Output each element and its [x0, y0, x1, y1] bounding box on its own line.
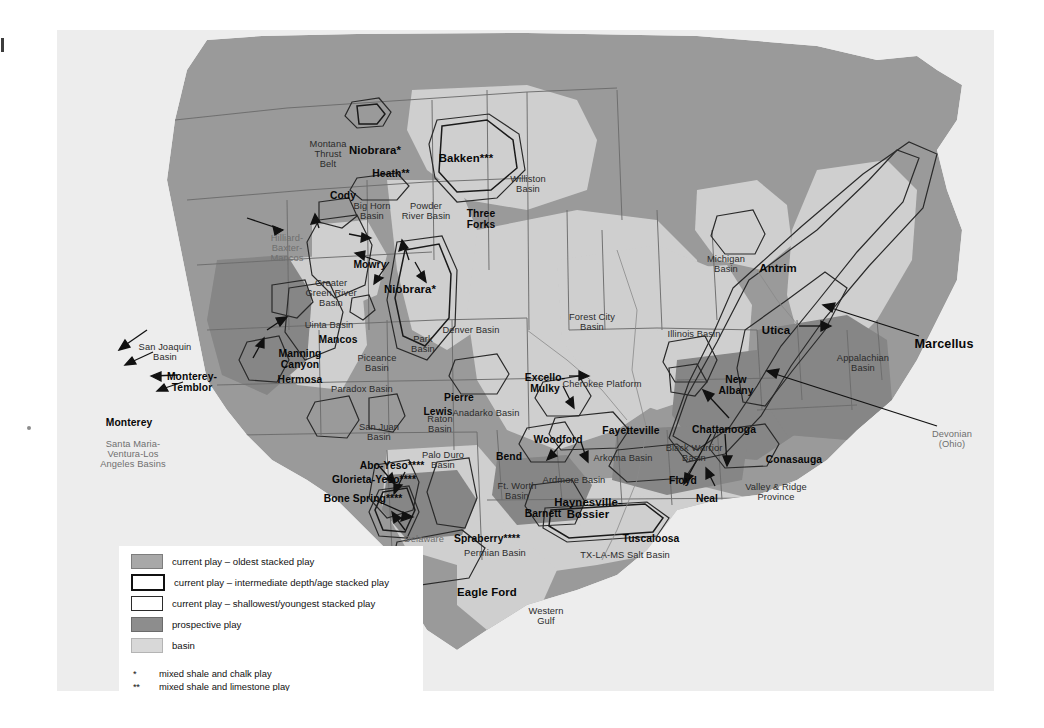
- play-label: Niobrara*: [349, 144, 401, 156]
- play-label: Hermosa: [278, 374, 323, 385]
- basin-label: Big HornBasin: [354, 202, 391, 222]
- basin-label: Forest CityBasin: [569, 313, 615, 333]
- legend-swatch: [131, 638, 163, 653]
- play-label: Marcellus: [915, 338, 974, 351]
- play-label: Conasauga: [766, 454, 822, 465]
- play-label: Glorieta-Yeso****: [332, 474, 416, 485]
- basin-label: AppalachianBasin: [837, 354, 889, 374]
- play-label: Niobrara*: [384, 283, 436, 295]
- legend-entry: current play – intermediate depth/age st…: [131, 575, 389, 590]
- basin-label: PowderRiver Basin: [402, 202, 451, 222]
- basin-label: Anadarko Basin: [452, 409, 519, 419]
- play-label: Utica: [762, 324, 790, 336]
- play-label: Bakken***: [439, 152, 494, 164]
- play-label: Mancos: [319, 334, 358, 345]
- scan-artifact-dot: [27, 426, 31, 430]
- play-label: Abo-Yeso****: [360, 460, 425, 471]
- basin-label: WesternGulf: [528, 607, 563, 627]
- region-label: Devonian(Ohio): [932, 430, 972, 450]
- basin-label: Arkoma Basin: [593, 454, 652, 464]
- footnote-text: mixed shale and chalk play: [159, 668, 272, 679]
- play-label: Chattanooga: [692, 424, 756, 435]
- play-label: Eagle Ford: [457, 586, 517, 598]
- play-label: Monterey: [106, 417, 153, 428]
- play-label: Monterey-Temblor: [167, 371, 217, 393]
- play-label: Excello-Mulky: [525, 372, 565, 394]
- basin-label: GreaterGreen RiverBasin: [305, 279, 356, 309]
- shale-plays-map: Niobrara*Bakken***Heath**CodyThreeForksM…: [57, 30, 994, 691]
- basin-label: San JoaquinBasin: [139, 343, 192, 363]
- legend-swatch: [131, 596, 163, 611]
- basin-label: San JuanBasin: [359, 423, 399, 443]
- legend-swatch: [131, 574, 165, 591]
- basin-label: Palo DuroBasin: [422, 451, 464, 471]
- play-label: Pierre: [444, 392, 474, 403]
- legend-swatch: [131, 617, 163, 632]
- legend-footnote: *mixed shale and chalk play: [133, 668, 272, 679]
- basin-label: MontanaThrustBelt: [310, 140, 347, 170]
- basin-label: Uinta Basin: [305, 321, 354, 331]
- legend-entry-label: prospective play: [172, 619, 241, 630]
- play-label: Floyd: [669, 475, 697, 486]
- scan-artifact-bar: [1, 38, 4, 52]
- basin-label: PiceanceBasin: [357, 354, 396, 374]
- play-label: Cody: [330, 190, 356, 201]
- play-label: Woodford: [533, 434, 582, 445]
- basin-label: Cherokee Platform: [562, 380, 641, 390]
- basin-label: Paradox Basin: [331, 385, 393, 395]
- play-label: Antrim: [759, 262, 796, 274]
- legend-entry: basin: [131, 638, 195, 653]
- basin-label: Valley & RidgeProvince: [745, 483, 807, 503]
- legend-entry-label: current play – oldest stacked play: [172, 556, 314, 567]
- basin-label: ParkBasin: [411, 335, 435, 355]
- legend-footnote: **mixed shale and limestone play: [133, 681, 290, 691]
- basin-label: Black WarriorBasin: [666, 444, 723, 464]
- play-label: Mowry: [353, 259, 386, 270]
- play-label: ManningCanyon: [278, 348, 321, 370]
- region-label: Delaware: [404, 535, 444, 545]
- basin-label: Ft. WorthBasin: [498, 482, 537, 502]
- basin-label: RatonBasin: [427, 415, 452, 435]
- play-label: Heath**: [372, 168, 409, 179]
- basin-label: Illinois Basin: [667, 330, 720, 340]
- legend-entry: current play – shallowest/youngest stack…: [131, 596, 375, 611]
- basin-label: MichiganBasin: [707, 255, 745, 275]
- play-label: Bone Spring****: [324, 493, 403, 504]
- region-label: Santa Maria-Ventura-LosAngeles Basins: [100, 440, 165, 470]
- map-legend: current play – oldest stacked playcurren…: [119, 546, 423, 691]
- legend-swatch: [131, 554, 163, 569]
- play-label: Tuscaloosa: [623, 533, 680, 544]
- play-label: NewAlbany: [719, 374, 754, 396]
- basin-label: Denver Basin: [442, 326, 499, 336]
- play-label: Neal: [696, 493, 718, 504]
- play-label: ThreeForks: [467, 208, 496, 230]
- legend-entry: prospective play: [131, 617, 241, 632]
- basin-label: Ardmore Basin: [543, 476, 606, 486]
- footnote-marker: *: [133, 668, 159, 679]
- play-label: Fayetteville: [602, 425, 659, 436]
- play-label: Spraberry****: [454, 533, 520, 544]
- basin-label: WillistonBasin: [510, 175, 546, 195]
- legend-entry-label: current play – intermediate depth/age st…: [174, 577, 389, 588]
- play-label: Haynesville-Bossier: [554, 496, 622, 520]
- legend-entry-label: current play – shallowest/youngest stack…: [172, 598, 375, 609]
- legend-entry-label: basin: [172, 640, 195, 651]
- basin-label: Permian Basin: [464, 549, 526, 559]
- footnote-text: mixed shale and limestone play: [159, 681, 290, 691]
- footnote-marker: **: [133, 681, 159, 691]
- region-label: Hilliard-Baxter-Mancos: [270, 234, 303, 264]
- play-label: Bend: [496, 451, 522, 462]
- legend-entry: current play – oldest stacked play: [131, 554, 314, 569]
- basin-label: TX-LA-MS Salt Basin: [580, 551, 670, 561]
